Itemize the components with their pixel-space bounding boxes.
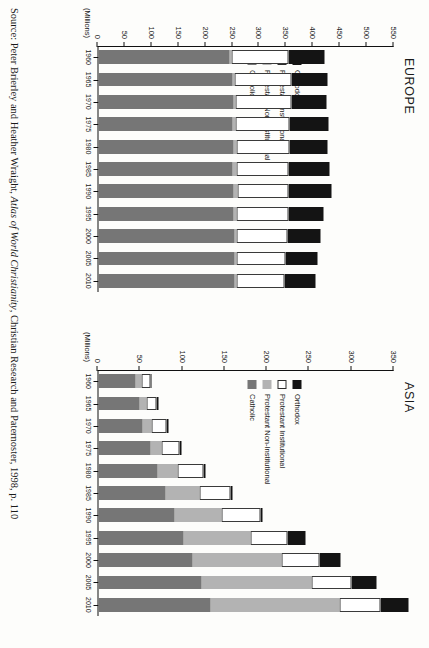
bar-1985[interactable]: [98, 162, 329, 176]
bar-1960[interactable]: [98, 50, 324, 64]
plot-area-asia: 0501001502002503003501960196519701975198…: [97, 370, 393, 616]
bar-segment: [98, 508, 174, 522]
bar-1995[interactable]: [98, 207, 323, 221]
bar-1975[interactable]: [98, 441, 181, 455]
x-axis-tick-label: 1980: [84, 139, 91, 155]
chart-panel-asia: ASIA (Millions) Orthodox Protestant Inst…: [43, 324, 429, 648]
x-axis-tick: [93, 605, 98, 606]
bar-segment: [139, 397, 146, 411]
x-axis-tick-label: 2010: [84, 273, 91, 289]
bar-segment: [287, 229, 320, 243]
bar-segment: [291, 95, 327, 109]
bar-1965[interactable]: [98, 73, 327, 87]
bar-segment: [98, 486, 165, 500]
x-axis-tick: [93, 57, 98, 58]
bar-segment: [236, 252, 284, 266]
y-axis-tick-label: 300: [346, 350, 355, 363]
bar-1960[interactable]: [98, 374, 151, 388]
x-axis-tick: [93, 281, 98, 282]
bar-1980[interactable]: [98, 464, 205, 478]
y-axis-tick-label: 0: [93, 359, 102, 363]
bar-segment: [201, 576, 311, 590]
bar-segment: [234, 73, 292, 87]
y-axis-tick-label: 350: [281, 26, 290, 39]
x-axis-tick-label: 2005: [84, 251, 91, 267]
bar-1965[interactable]: [98, 397, 158, 411]
source-citation: Source: Peter Brierley and Heather Wraig…: [8, 8, 19, 519]
y-axis-tick-label: 150: [173, 26, 182, 39]
bar-segment: [98, 162, 232, 176]
y-axis-tick-label: 100: [146, 26, 155, 39]
x-axis-tick-label: 1965: [84, 396, 91, 412]
bar-segment: [98, 95, 233, 109]
bar-1990[interactable]: [98, 184, 331, 198]
y-axis-tick-label: 200: [262, 350, 271, 363]
y-axis-tick: [123, 42, 124, 47]
x-axis-tick: [93, 426, 98, 427]
x-axis-tick: [93, 538, 98, 539]
y-axis-tick: [365, 42, 366, 47]
x-axis-tick-label: 2000: [84, 228, 91, 244]
bar-segment: [142, 419, 151, 433]
source-authors: Peter Brierley and Heather Wraight,: [8, 43, 19, 194]
bar-segment: [98, 207, 233, 221]
bar-1995[interactable]: [98, 531, 305, 545]
y-axis-tick: [138, 366, 139, 371]
bar-1985[interactable]: [98, 486, 232, 500]
bar-2000[interactable]: [98, 553, 340, 567]
x-axis-tick-label: 1975: [84, 116, 91, 132]
x-axis-tick: [93, 236, 98, 237]
x-axis-tick: [93, 381, 98, 382]
x-axis-tick-label: 2010: [84, 597, 91, 613]
x-axis-tick-label: 1985: [84, 485, 91, 501]
source-prefix: Source:: [8, 8, 19, 40]
bar-1970[interactable]: [98, 95, 326, 109]
bar-2010[interactable]: [98, 598, 408, 612]
bar-2005[interactable]: [98, 576, 376, 590]
bar-segment: [250, 531, 286, 545]
bar-1970[interactable]: [98, 419, 168, 433]
y-axis-tick: [284, 42, 285, 47]
y-axis-tick-label: 50: [135, 355, 144, 363]
bar-1990[interactable]: [98, 508, 262, 522]
y-axis-line-asia: [97, 370, 393, 371]
x-axis-tick-label: 1995: [84, 206, 91, 222]
bar-segment: [287, 531, 306, 545]
x-axis-tick: [93, 147, 98, 148]
y-axis-tick: [265, 366, 266, 371]
bar-1975[interactable]: [98, 117, 328, 131]
x-axis-tick-label: 1985: [84, 161, 91, 177]
bar-segment: [135, 374, 141, 388]
bar-segment: [236, 207, 288, 221]
y-axis-tick-label: 200: [200, 26, 209, 39]
bar-segment: [98, 50, 229, 64]
y-axis-tick: [392, 366, 393, 371]
y-axis-tick: [96, 42, 97, 47]
bar-segment: [351, 576, 376, 590]
y-axis-tick: [338, 42, 339, 47]
x-axis-tick: [93, 560, 98, 561]
y-axis-tick-label: 100: [177, 350, 186, 363]
bar-segment: [319, 553, 340, 567]
x-axis-tick-label: 2005: [84, 575, 91, 591]
bar-1980[interactable]: [98, 140, 327, 154]
bar-2000[interactable]: [98, 229, 320, 243]
bar-segment: [380, 598, 408, 612]
bar-segment: [231, 50, 288, 64]
bar-segment: [98, 598, 210, 612]
x-axis-tick-label: 1965: [84, 72, 91, 88]
bar-segment: [339, 598, 380, 612]
bar-segment: [146, 397, 156, 411]
x-axis-tick: [93, 214, 98, 215]
chart-page: EUROPE (Millions) Orthodox Protestant In…: [0, 0, 429, 648]
source-publisher: , Christian Research and Paternoster, 19…: [8, 310, 19, 519]
y-axis-tick: [350, 366, 351, 371]
bar-2010[interactable]: [98, 274, 315, 288]
bar-2005[interactable]: [98, 252, 317, 266]
bar-segment: [98, 576, 201, 590]
y-axis-tick-label: 450: [335, 26, 344, 39]
bar-segment: [285, 252, 317, 266]
bar-segment: [235, 95, 291, 109]
y-axis-line-europe: [97, 46, 393, 47]
bar-segment: [141, 374, 149, 388]
